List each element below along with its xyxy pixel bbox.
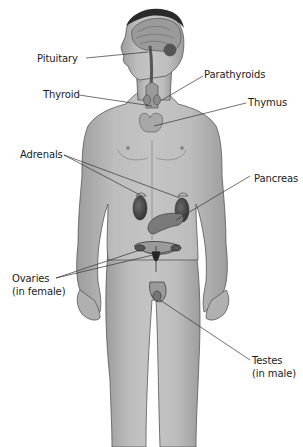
thyroid-gland: [144, 82, 161, 108]
label-parathyroids: Parathyroids: [204, 68, 265, 81]
label-pituitary: Pituitary: [37, 52, 78, 65]
endocrine-diagram: Pituitary Parathyroids Thyroid Thymus Ad…: [0, 0, 303, 447]
label-thyroid: Thyroid: [43, 88, 80, 101]
label-testes: Testes (in male): [252, 354, 296, 380]
label-ovaries: Ovaries (in female): [12, 272, 65, 298]
thymus-gland: [139, 113, 162, 132]
label-pancreas: Pancreas: [254, 172, 298, 185]
label-adrenals: Adrenals: [20, 148, 63, 161]
label-thymus: Thymus: [248, 96, 287, 109]
